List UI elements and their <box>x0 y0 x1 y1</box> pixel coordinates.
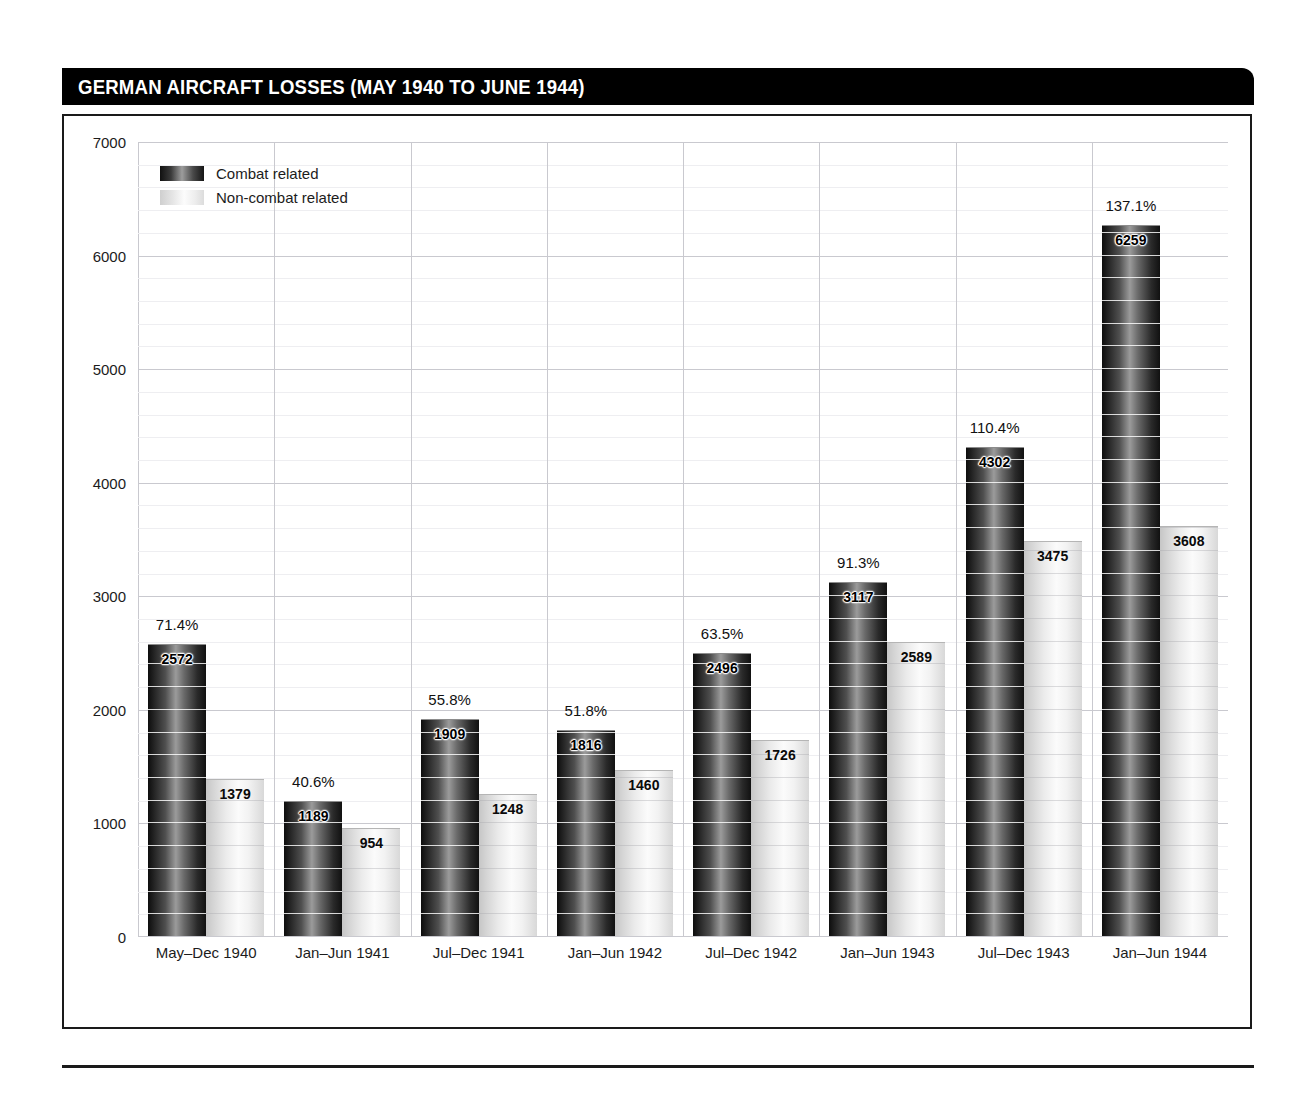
bar-non-combat-related[interactable]: 3475 <box>1024 541 1082 937</box>
bar-gridline-overlay <box>615 800 673 801</box>
percent-annotation: 63.5% <box>693 625 751 642</box>
x-axis-tick-label: Jul–Dec 1942 <box>683 944 819 961</box>
bar-gridline-overlay <box>615 913 673 914</box>
bar-combat-related[interactable]: 1909 <box>421 719 479 937</box>
bar-value-label: 1379 <box>206 786 264 802</box>
bar-value-label: 1909 <box>421 726 479 742</box>
bar-gridline-overlay <box>148 891 206 892</box>
bar-gridline-overlay <box>148 800 206 801</box>
bar-gridline-overlay <box>284 913 342 914</box>
bar-gridline-overlay <box>148 709 206 710</box>
bar-gridline-overlay <box>1024 822 1082 823</box>
bar-gridline-overlay <box>1160 822 1218 823</box>
bar-gridline-overlay <box>1102 255 1160 256</box>
bar-non-combat-related[interactable]: 3608 <box>1160 526 1218 937</box>
bar-gridline-overlay <box>148 732 206 733</box>
chart-frame: 01000200030004000500060007000 2572137971… <box>62 114 1252 1029</box>
bar-combat-related[interactable]: 1189 <box>284 801 342 937</box>
bar-value-label: 954 <box>342 835 400 851</box>
bar-gridline-overlay <box>1024 913 1082 914</box>
bar-gridline-overlay <box>1024 845 1082 846</box>
bar-gridline-overlay <box>966 686 1024 687</box>
bar-gridline-overlay <box>421 800 479 801</box>
bar-combat-related[interactable]: 1816 <box>557 730 615 937</box>
bar-value-label: 2589 <box>887 649 945 665</box>
x-axis-tick-label: Jan–Jun 1943 <box>819 944 955 961</box>
footer-divider <box>62 1065 1254 1068</box>
bar-gridline-overlay <box>966 482 1024 483</box>
bar-gridline-overlay <box>1102 641 1160 642</box>
bar-gridline-overlay <box>1024 800 1082 801</box>
bar-gridline-overlay <box>206 913 264 914</box>
bar-gridline-overlay <box>421 777 479 778</box>
bar-gridline-overlay <box>557 732 615 733</box>
bar-gridline-overlay <box>751 822 809 823</box>
bar-gridline-overlay <box>966 754 1024 755</box>
legend-label-noncombat: Non-combat related <box>216 189 348 206</box>
y-axis-tick-label: 7000 <box>93 134 126 151</box>
bar-gridline-overlay <box>887 777 945 778</box>
bar-gridline-overlay <box>1102 436 1160 437</box>
bar-group: 3117258991.3% <box>819 142 955 937</box>
bar-gridline-overlay <box>342 891 400 892</box>
bar-gridline-overlay <box>1102 913 1160 914</box>
bar-gridline-overlay <box>693 913 751 914</box>
y-axis-tick-label: 2000 <box>93 701 126 718</box>
bar-non-combat-related[interactable]: 954 <box>342 828 400 937</box>
bar-non-combat-related[interactable]: 1379 <box>206 779 264 937</box>
bar-non-combat-related[interactable]: 1726 <box>751 740 809 937</box>
bar-non-combat-related[interactable]: 2589 <box>887 642 945 937</box>
bar-combat-related[interactable]: 6259 <box>1102 225 1160 937</box>
x-axis: May–Dec 1940Jan–Jun 1941Jul–Dec 1941Jan–… <box>138 944 1228 974</box>
bar-gridline-overlay <box>1160 618 1218 619</box>
bar-gridline-overlay <box>479 913 537 914</box>
bar-value-label: 1189 <box>284 808 342 824</box>
bar-gridline-overlay <box>1024 641 1082 642</box>
bar-combat-related[interactable]: 4302 <box>966 447 1024 937</box>
bar-gridline-overlay <box>1024 777 1082 778</box>
bar-gridline-overlay <box>1160 527 1218 528</box>
bar-gridline-overlay <box>1160 573 1218 574</box>
bar-gridline-overlay <box>829 732 887 733</box>
legend-item-noncombat: Non-combat related <box>160 186 348 208</box>
bar-gridline-overlay <box>966 595 1024 596</box>
bar-gridline-overlay <box>1102 482 1160 483</box>
bar-gridline-overlay <box>206 845 264 846</box>
bar-gridline-overlay <box>966 845 1024 846</box>
bar-gridline-overlay <box>751 891 809 892</box>
x-axis-tick-label: Jan–Jun 1942 <box>547 944 683 961</box>
bar-combat-related[interactable]: 2572 <box>148 644 206 937</box>
bar-gridline-overlay <box>206 822 264 823</box>
bar-group: 1816146051.8% <box>547 142 683 937</box>
legend: Combat related Non-combat related <box>160 162 348 210</box>
bar-gridline-overlay <box>1160 641 1218 642</box>
bar-gridline-overlay <box>557 845 615 846</box>
bar-non-combat-related[interactable]: 1460 <box>615 770 673 937</box>
bar-combat-related[interactable]: 3117 <box>829 582 887 937</box>
bar-gridline-overlay <box>342 913 400 914</box>
bar-gridline-overlay <box>1102 573 1160 574</box>
bar-combat-related[interactable]: 2496 <box>693 653 751 937</box>
bar-gridline-overlay <box>693 868 751 869</box>
bar-gridline-overlay <box>966 663 1024 664</box>
bar-gridline-overlay <box>1102 777 1160 778</box>
bar-gridline-overlay <box>1102 527 1160 528</box>
bar-gridline-overlay <box>421 754 479 755</box>
bar-gridline-overlay <box>421 868 479 869</box>
percent-annotation: 91.3% <box>829 554 887 571</box>
bar-gridline-overlay <box>421 845 479 846</box>
bar-gridline-overlay <box>1102 391 1160 392</box>
percent-annotation: 137.1% <box>1102 197 1160 214</box>
x-axis-tick-label: Jan–Jun 1941 <box>274 944 410 961</box>
bar-gridline-overlay <box>615 845 673 846</box>
bar-non-combat-related[interactable]: 1248 <box>479 794 537 937</box>
bar-gridline-overlay <box>887 891 945 892</box>
bar-gridline-overlay <box>887 686 945 687</box>
bar-gridline-overlay <box>1102 663 1160 664</box>
bar-value-label: 4302 <box>966 454 1024 470</box>
bar-gridline-overlay <box>1024 573 1082 574</box>
bar-gridline-overlay <box>693 845 751 846</box>
bar-gridline-overlay <box>693 777 751 778</box>
bar-gridline-overlay <box>1024 709 1082 710</box>
bar-gridline-overlay <box>148 777 206 778</box>
